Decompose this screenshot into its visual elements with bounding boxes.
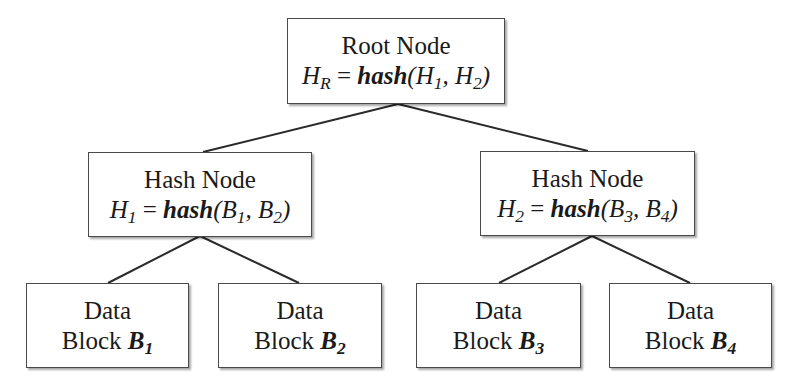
hash-node-formula: H2 = hash(B3, B4)	[497, 194, 678, 224]
root-node: Root Node HR = hash(H1, H2)	[287, 18, 505, 104]
hash-node-h2: Hash Node H2 = hash(B3, B4)	[480, 151, 695, 236]
root-node-formula: HR = hash(H1, H2)	[302, 61, 490, 91]
hash-node-formula: H1 = hash(B1, B2)	[110, 195, 291, 225]
edge-h2-b4	[592, 236, 690, 283]
hash-node-title: Hash Node	[144, 165, 256, 195]
hash-node-title: Hash Node	[532, 164, 644, 194]
edge-h1-b2	[200, 236, 299, 283]
edge-root-h1	[203, 104, 398, 152]
data-block-b3: Data Block B3	[416, 283, 581, 368]
data-block-b4: Data Block B4	[609, 283, 772, 368]
edge-h1-b1	[108, 236, 200, 283]
edge-h2-b3	[499, 236, 592, 283]
root-node-title: Root Node	[341, 31, 450, 61]
data-block-b1: Data Block B1	[26, 283, 189, 368]
edge-root-h2	[398, 104, 588, 151]
hash-node-h1: Hash Node H1 = hash(B1, B2)	[88, 152, 312, 237]
data-block-b2: Data Block B2	[218, 283, 382, 368]
